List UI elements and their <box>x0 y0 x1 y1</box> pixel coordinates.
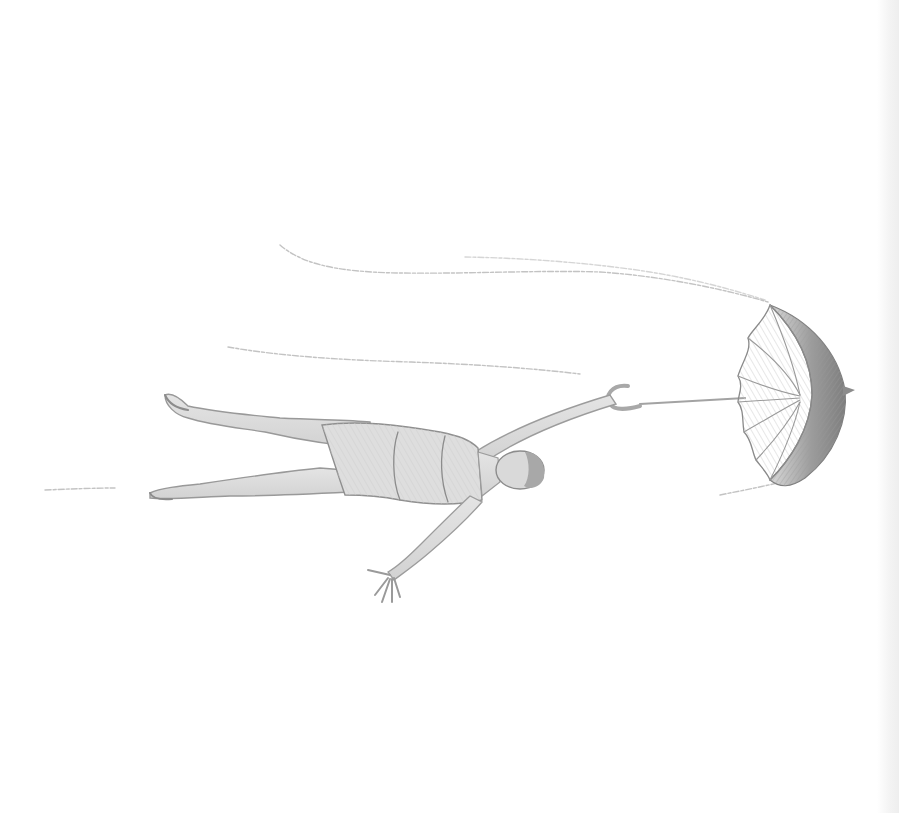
illustration-canvas <box>0 0 899 813</box>
umbrella-shaft <box>640 398 745 404</box>
sketch-svg <box>0 0 899 813</box>
wind-streak-middle <box>228 347 580 374</box>
umbrella-tip <box>843 386 855 396</box>
figure-leg-lower <box>150 468 350 499</box>
wind-streak-left <box>45 488 115 490</box>
wind-streak-upper-2 <box>465 257 765 300</box>
umbrella <box>608 305 855 486</box>
figure-swimsuit-shading <box>322 423 482 504</box>
figure-arm-raised <box>475 395 616 462</box>
wind-streak-upper <box>280 245 768 302</box>
woman-figure <box>150 394 616 602</box>
figure-arm-lower <box>388 496 482 580</box>
